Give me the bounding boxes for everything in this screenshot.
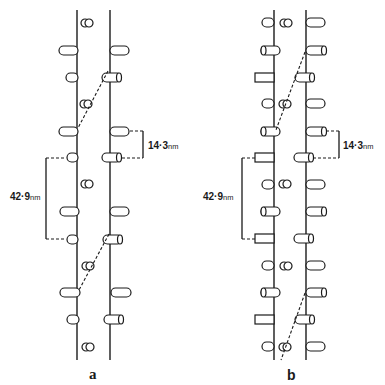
panel-a-label: a <box>89 366 97 382</box>
panel-b-helix-track-lower <box>281 293 305 360</box>
panel-a: 14·3nm 42·9nm a <box>10 10 178 382</box>
panel-b-end-on-projections <box>279 19 292 351</box>
panel-b-left-projections <box>255 18 280 351</box>
panel-a-long-repeat-bracket: 42·9nm <box>10 158 66 239</box>
panel-a-end-on-projections <box>80 19 94 351</box>
panel-b-short-repeat-label: 14·3nm <box>343 140 373 151</box>
panel-b-label: b <box>287 367 296 383</box>
panel-b-helix-track-upper <box>276 52 305 130</box>
panel-a-long-repeat-label: 42·9nm <box>10 191 40 202</box>
panel-b-long-repeat-label: 42·9nm <box>203 191 233 202</box>
panel-a-short-repeat-label: 14·3nm <box>148 140 178 151</box>
panel-a-short-repeat-bracket: 14·3nm <box>122 131 178 158</box>
panel-a-right-projections <box>102 46 131 324</box>
panel-b: 14·3nm 42·9nm b <box>203 10 373 383</box>
panel-b-long-repeat-bracket: 42·9nm <box>203 158 255 239</box>
myosin-filament-diagram: 14·3nm 42·9nm a <box>0 0 385 385</box>
